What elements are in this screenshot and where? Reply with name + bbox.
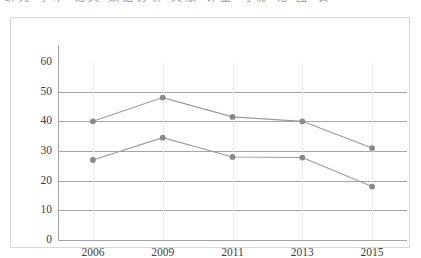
data-point-s2-2015[interactable] <box>369 184 375 190</box>
y-tick-label-40: 40 <box>41 116 53 128</box>
x-tick-label-2015: 2015 <box>361 246 384 258</box>
x-tick-label-2013: 2013 <box>291 246 314 258</box>
clipped-header-text: 研究 学术 论文 数据分析 文献 计量 可视 化 图 表 <box>0 0 421 12</box>
x-tick-label-2006: 2006 <box>81 246 104 258</box>
data-point-s1-2011[interactable] <box>230 114 236 120</box>
data-point-s1-2013[interactable] <box>299 118 305 124</box>
data-point-s1-2015[interactable] <box>369 145 375 151</box>
x-tick-label-2011: 2011 <box>221 246 244 258</box>
series-container <box>58 62 407 240</box>
data-point-s2-2013[interactable] <box>299 155 305 161</box>
y-tick-label-60: 60 <box>41 56 53 68</box>
x-axis-tick-labels: 20062009201120132015 <box>58 246 407 258</box>
data-point-s2-2006[interactable] <box>90 157 96 163</box>
x-tick-label-2009: 2009 <box>151 246 174 258</box>
gridline-h-0 <box>58 240 407 241</box>
y-tick-label-10: 10 <box>41 205 53 217</box>
data-point-s1-2006[interactable] <box>90 118 96 124</box>
series-line-1 <box>93 98 372 148</box>
plot-area <box>58 62 407 240</box>
y-tick-label-20: 20 <box>41 175 53 187</box>
y-tick-label-50: 50 <box>41 86 53 98</box>
data-point-s2-2011[interactable] <box>230 154 236 160</box>
data-point-s2-2009[interactable] <box>160 135 166 141</box>
series-line-2 <box>93 138 372 187</box>
y-tick-label-30: 30 <box>41 145 53 157</box>
data-point-s1-2009[interactable] <box>160 95 166 101</box>
clipped-header-glyphs: 研究 学术 论文 数据分析 文献 计量 可视 化 图 表 <box>4 0 331 4</box>
chart-frame: 0102030405060 20062009201120132015 <box>10 17 410 248</box>
y-axis-tick-labels: 0102030405060 <box>11 62 52 240</box>
y-tick-label-0: 0 <box>46 234 52 246</box>
